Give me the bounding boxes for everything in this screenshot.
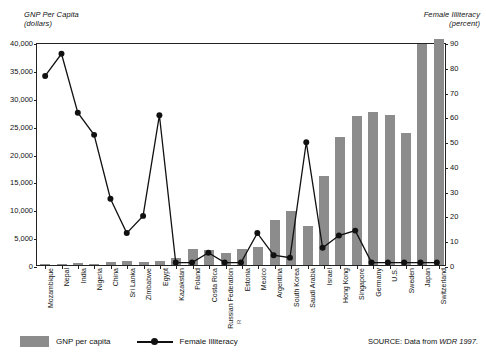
y-axis-left-tick-label: 20,000 [10, 152, 33, 160]
legend-item-illiteracy: Female Illiteracy [137, 337, 238, 347]
x-axis-label-india: India [80, 268, 87, 283]
y-axis-right-tickmark [445, 193, 448, 194]
right-axis-title: Female Illiteracy (percent) [424, 10, 480, 28]
y-axis-left-tick-label: 25,000 [10, 124, 33, 132]
y-axis-right-tick-label: 60 [450, 114, 458, 122]
y-axis-right-tick-label: 30 [450, 189, 458, 197]
source-reference: WDR 1997. [439, 337, 478, 346]
y-axis-left-tick-label: 15,000 [10, 179, 33, 187]
y-axis-right-tickmark [445, 242, 448, 243]
x-axis-label-israel: Israel [326, 268, 333, 285]
source-note: SOURCE: Data from WDR 1997. [368, 337, 478, 346]
y-axis-left-tick-label: 35,000 [10, 68, 33, 76]
y-axis-left-tickmark [34, 128, 37, 129]
y-axis-right-tickmark [445, 118, 448, 119]
x-axis-label-south-korea: South Korea [293, 268, 300, 307]
right-axis-title-line2: (percent) [424, 19, 480, 28]
y-axis-left-tickmark [34, 72, 37, 73]
x-axis-label-argentina: Argentina [276, 268, 283, 298]
y-axis-right-tick-label: 10 [450, 238, 458, 246]
x-axis-tickmarks [37, 44, 445, 265]
y-axis-left-tickmark [34, 239, 37, 240]
gnp-illiteracy-chart: GNP Per Capita (dollars) Female Illitera… [0, 0, 486, 363]
y-axis-right-tickmark [445, 94, 448, 95]
x-axis-label-estonia: Estonia [244, 268, 251, 291]
legend-label-illiteracy: Female Illiteracy [180, 337, 238, 346]
x-axis-label-nepal: Nepal [63, 268, 70, 286]
plot-area: 05,00010,00015,00020,00025,00030,00035,0… [36, 43, 446, 266]
left-axis-title: GNP Per Capita (dollars) [24, 10, 79, 28]
y-axis-right-tickmark [445, 217, 448, 218]
chart-legend: GNP per capita Female Illiteracy [20, 336, 238, 347]
y-axis-left-tick-label: 5,000 [14, 235, 33, 243]
y-axis-left-tickmark [34, 211, 37, 212]
page-marker: R [236, 320, 242, 324]
x-axis-label-switzerland: Switzerland [440, 268, 447, 304]
legend-item-gnp: GNP per capita [20, 336, 111, 347]
x-axis-label-poland: Poland [194, 268, 201, 290]
y-axis-right-tick-label: 40 [450, 164, 458, 172]
line-marker-icon [137, 337, 173, 347]
x-axis-label-singapore: Singapore [358, 268, 365, 300]
x-axis-label-germany: Germany [375, 268, 382, 297]
x-axis-label-sri-lanka: Sri Lanka [129, 268, 136, 298]
x-axis-label-sweden: Sweden [408, 268, 415, 293]
left-axis-title-line1: GNP Per Capita [24, 10, 79, 19]
legend-label-gnp: GNP per capita [56, 337, 111, 346]
bar-swatch-icon [20, 336, 49, 347]
y-axis-right-tickmark [445, 143, 448, 144]
y-axis-right-tick-label: 70 [450, 90, 458, 98]
y-axis-left-tick-label: 40,000 [10, 40, 33, 48]
right-axis-title-line1: Female Illiteracy [424, 10, 480, 19]
x-axis-label-costa-rica: Costa Rica [211, 268, 218, 302]
source-prefix: SOURCE: Data from [368, 337, 439, 346]
x-axis-label-egypt: Egypt [162, 268, 169, 286]
x-axis-label-zimbabwe: Zimbabwe [145, 268, 152, 300]
y-axis-left-tickmark [34, 183, 37, 184]
left-axis-title-line2: (dollars) [24, 19, 79, 28]
x-axis-label-hong-kong: Hong Kong [342, 268, 349, 303]
x-axis-label-china: China [112, 268, 119, 286]
y-axis-left-tick-label: 10,000 [10, 207, 33, 215]
y-axis-right-tickmark [445, 168, 448, 169]
x-axis-label-mexico: Mexico [260, 268, 267, 290]
y-axis-left-tickmark [34, 100, 37, 101]
y-axis-right-tickmark [445, 44, 448, 45]
y-axis-left-tick-label: 30,000 [10, 96, 33, 104]
y-axis-right-tick-label: 0 [450, 263, 454, 271]
x-axis-label-nigeria: Nigeria [96, 268, 103, 290]
x-axis-label-kazakstan: Kazakstan [178, 268, 185, 301]
x-axis-label-saudi-arabia: Saudi Arabia [309, 268, 316, 308]
x-axis-label-u-s-: U.S. [391, 268, 398, 282]
y-axis-left-tick-label: 0 [29, 263, 33, 271]
y-axis-left-tickmark [34, 156, 37, 157]
x-axis-label-japan: Japan [424, 268, 431, 287]
y-axis-right-tick-label: 20 [450, 213, 458, 221]
y-axis-right-tick-label: 80 [450, 65, 458, 73]
x-axis-label-russian-federation: Russian Federation [227, 268, 234, 329]
x-axis-label-mozambique: Mozambique [47, 268, 54, 308]
y-axis-left-tickmark [34, 44, 37, 45]
y-axis-right-tick-label: 90 [450, 40, 458, 48]
y-axis-right-tickmark [445, 69, 448, 70]
y-axis-right-tick-label: 50 [450, 139, 458, 147]
